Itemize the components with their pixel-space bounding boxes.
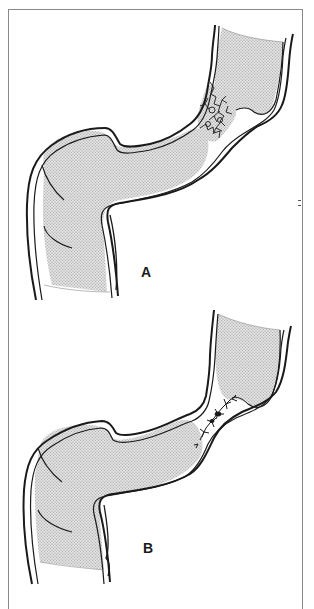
panel-a-illustration <box>0 0 314 300</box>
stomach-b <box>23 310 291 584</box>
stomach-a <box>27 25 293 300</box>
edge-tick-mark <box>298 200 301 206</box>
panel-b-illustration <box>0 300 314 602</box>
panel-label-a: A <box>141 264 151 280</box>
panel-label-b: B <box>143 540 153 556</box>
